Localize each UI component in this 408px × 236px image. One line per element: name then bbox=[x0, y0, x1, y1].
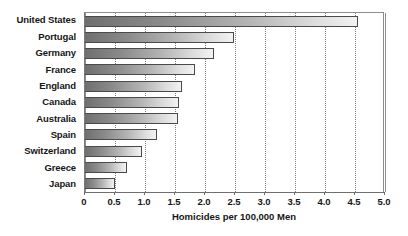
bar-row bbox=[85, 62, 383, 78]
bar-row bbox=[85, 13, 383, 29]
tick-label: 2.0 bbox=[197, 196, 210, 208]
tick-label: 5.0 bbox=[377, 196, 390, 208]
tick-mark bbox=[114, 192, 115, 195]
category-label: Australia bbox=[36, 114, 76, 124]
tick-label: 4.0 bbox=[317, 196, 330, 208]
bar bbox=[85, 113, 178, 124]
bar-row bbox=[85, 176, 383, 192]
category-label: France bbox=[45, 65, 76, 75]
bar-row bbox=[85, 46, 383, 62]
category-label-row: Germany bbox=[0, 45, 80, 61]
bar bbox=[85, 32, 234, 43]
category-label: Portugal bbox=[38, 32, 76, 42]
tick-mark bbox=[294, 192, 295, 195]
tick-mark bbox=[144, 192, 145, 195]
category-label-row: United States bbox=[0, 12, 80, 28]
bar bbox=[85, 97, 179, 108]
bar bbox=[85, 48, 214, 59]
bar-row bbox=[85, 111, 383, 127]
tick-mark bbox=[234, 192, 235, 195]
x-axis-tick-labels: 00.51.01.52.02.53.03.54.04.55.0 bbox=[84, 196, 384, 210]
bar-row bbox=[85, 94, 383, 110]
category-label-row: Portugal bbox=[0, 28, 80, 44]
category-label: United States bbox=[17, 15, 76, 25]
bar bbox=[85, 129, 157, 140]
category-label-row: England bbox=[0, 77, 80, 93]
tick-mark bbox=[324, 192, 325, 195]
bar-row bbox=[85, 127, 383, 143]
category-label: England bbox=[39, 81, 76, 91]
category-label: Germany bbox=[36, 48, 77, 58]
tick-mark bbox=[354, 192, 355, 195]
category-label: Canada bbox=[42, 97, 76, 107]
category-label-row: Greece bbox=[0, 159, 80, 175]
tick-mark bbox=[384, 192, 385, 195]
category-label-row: Australia bbox=[0, 110, 80, 126]
category-label: Greece bbox=[44, 163, 76, 173]
tick-label: 0.5 bbox=[107, 196, 120, 208]
category-label: Switzerland bbox=[24, 146, 76, 156]
tick-label: 4.5 bbox=[347, 196, 360, 208]
tick-mark bbox=[174, 192, 175, 195]
category-label-row: Japan bbox=[0, 176, 80, 192]
bar bbox=[85, 162, 127, 173]
x-axis-title: Homicides per 100,000 Men bbox=[84, 211, 384, 223]
category-label-row: France bbox=[0, 61, 80, 77]
bar bbox=[85, 64, 195, 75]
tick-mark bbox=[204, 192, 205, 195]
category-label: Japan bbox=[49, 179, 76, 189]
category-label-row: Canada bbox=[0, 94, 80, 110]
tick-label: 3.5 bbox=[287, 196, 300, 208]
tick-mark bbox=[264, 192, 265, 195]
gridline bbox=[385, 13, 386, 192]
plot-area bbox=[84, 12, 384, 192]
bar-series bbox=[85, 13, 383, 192]
bar-row bbox=[85, 29, 383, 45]
tick-label: 3.0 bbox=[257, 196, 270, 208]
category-label-row: Switzerland bbox=[0, 143, 80, 159]
tick-label: 0 bbox=[81, 196, 86, 208]
bar bbox=[85, 81, 182, 92]
category-label: Spain bbox=[51, 130, 76, 140]
category-axis-labels: United StatesPortugalGermanyFranceEnglan… bbox=[0, 12, 80, 192]
category-label-row: Spain bbox=[0, 127, 80, 143]
bar bbox=[85, 16, 358, 27]
bar bbox=[85, 178, 115, 189]
homicide-rate-bar-chart: United StatesPortugalGermanyFranceEnglan… bbox=[0, 0, 408, 236]
bar-row bbox=[85, 159, 383, 175]
tick-label: 2.5 bbox=[227, 196, 240, 208]
bar bbox=[85, 146, 142, 157]
bar-row bbox=[85, 143, 383, 159]
tick-mark bbox=[84, 192, 85, 195]
bar-row bbox=[85, 78, 383, 94]
tick-label: 1.0 bbox=[137, 196, 150, 208]
tick-label: 1.5 bbox=[167, 196, 180, 208]
